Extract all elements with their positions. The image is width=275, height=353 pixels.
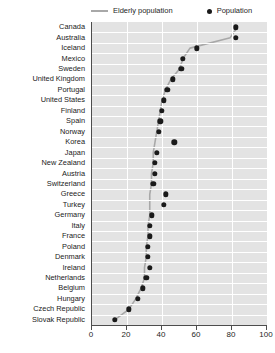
category-label: Norway	[60, 128, 85, 135]
horizontal-gridline	[92, 252, 267, 253]
x-axis-tick-label: 60	[192, 331, 201, 339]
category-label: Portugal	[57, 86, 85, 93]
vertical-gridline	[197, 22, 198, 325]
horizontal-gridline	[92, 168, 267, 169]
horizontal-gridline	[92, 85, 267, 86]
legend-label-population: Population	[217, 7, 252, 15]
category-label: Korea	[65, 138, 85, 145]
x-axis-line	[91, 325, 267, 326]
horizontal-gridline	[92, 74, 267, 75]
vertical-gridline	[232, 22, 233, 325]
category-label: Italy	[71, 222, 85, 229]
horizontal-gridline	[92, 304, 267, 305]
x-axis-tick-label: 0	[89, 331, 93, 339]
chart-legend: Elderly population Population	[91, 4, 266, 18]
category-label: Ireland	[62, 264, 85, 271]
category-label: Switzerland	[47, 180, 85, 187]
category-label: New Zealand	[41, 159, 85, 166]
horizontal-gridline	[92, 283, 267, 284]
category-label: Netherlands	[45, 274, 85, 281]
vertical-gridline	[127, 22, 128, 325]
x-axis-tick-label: 40	[157, 331, 166, 339]
legend-label-elderly-population: Elderly population	[113, 7, 173, 15]
horizontal-gridline	[92, 231, 267, 232]
horizontal-gridline	[92, 200, 267, 201]
category-label: Canada	[59, 23, 85, 30]
horizontal-gridline	[92, 210, 267, 211]
horizontal-gridline	[92, 116, 267, 117]
category-label: Mexico	[62, 55, 85, 62]
horizontal-gridline	[92, 126, 267, 127]
category-label: United Kingdom	[32, 75, 85, 82]
horizontal-gridline	[92, 294, 267, 295]
category-label: Poland	[62, 243, 85, 250]
horizontal-gridline	[92, 64, 267, 65]
category-label: Finland	[61, 107, 85, 114]
category-label: France	[62, 232, 85, 239]
category-label: United States	[41, 96, 85, 103]
x-axis-tick-label: 20	[122, 331, 131, 339]
category-label: Slovak Republic	[32, 316, 85, 323]
category-label: Iceland	[61, 44, 85, 51]
horizontal-gridline	[92, 32, 267, 33]
horizontal-gridline	[92, 158, 267, 159]
vertical-gridline	[267, 22, 268, 325]
category-axis-labels: CanadaAustraliaIcelandMexicoSwedenUnited…	[0, 22, 88, 325]
horizontal-gridline	[92, 43, 267, 44]
horizontal-gridline	[92, 262, 267, 263]
category-label: Czech Republic	[33, 305, 85, 312]
horizontal-gridline	[92, 315, 267, 316]
category-label: Greece	[61, 190, 85, 197]
horizontal-gridline	[92, 147, 267, 148]
legend-item-elderly-population: Elderly population	[91, 7, 173, 15]
horizontal-gridline	[92, 137, 267, 138]
x-axis-tick-label: 100	[259, 331, 272, 339]
category-label: Germany	[55, 211, 85, 218]
category-label: Australia	[56, 34, 85, 41]
category-label: Hungary	[57, 295, 85, 302]
category-label: Austria	[62, 170, 85, 177]
x-axis-tick-label: 80	[227, 331, 236, 339]
horizontal-gridline	[92, 221, 267, 222]
vertical-gridline	[162, 22, 163, 325]
legend-item-population: Population	[207, 7, 252, 15]
category-label: Japan	[65, 149, 85, 156]
legend-dot-icon	[207, 9, 212, 14]
horizontal-gridline	[92, 106, 267, 107]
legend-line-icon	[91, 10, 108, 12]
horizontal-gridline	[92, 241, 267, 242]
category-label: Belgium	[58, 284, 85, 291]
category-label: Denmark	[55, 253, 85, 260]
category-label: Turkey	[63, 201, 85, 208]
horizontal-gridline	[92, 273, 267, 274]
horizontal-gridline	[92, 53, 267, 54]
horizontal-gridline	[92, 189, 267, 190]
horizontal-gridline	[92, 179, 267, 180]
category-label: Spain	[66, 117, 85, 124]
horizontal-gridline	[92, 95, 267, 96]
chart-root: Elderly population Population CanadaAust…	[0, 0, 275, 353]
category-label: Sweden	[58, 65, 85, 72]
plot-area	[91, 22, 267, 325]
